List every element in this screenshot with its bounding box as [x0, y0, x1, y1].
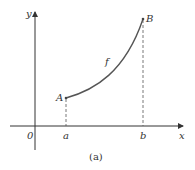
- figure-caption: (a): [89, 151, 103, 162]
- point-a-marker: [65, 97, 68, 100]
- tick-label-b: b: [140, 130, 146, 141]
- tick-label-a: a: [63, 130, 69, 141]
- function-graph-figure: y x 0 a b A B f (a): [0, 0, 195, 170]
- graph-canvas: y x 0 a b A B f (a): [0, 0, 195, 170]
- x-axis-label: x: [179, 130, 185, 141]
- curve-label-f: f: [104, 56, 111, 67]
- origin-label: 0: [27, 130, 34, 141]
- y-axis-label: y: [25, 8, 32, 19]
- point-label-a: A: [55, 92, 63, 103]
- point-b-marker: [142, 18, 145, 21]
- point-label-b: B: [145, 13, 153, 24]
